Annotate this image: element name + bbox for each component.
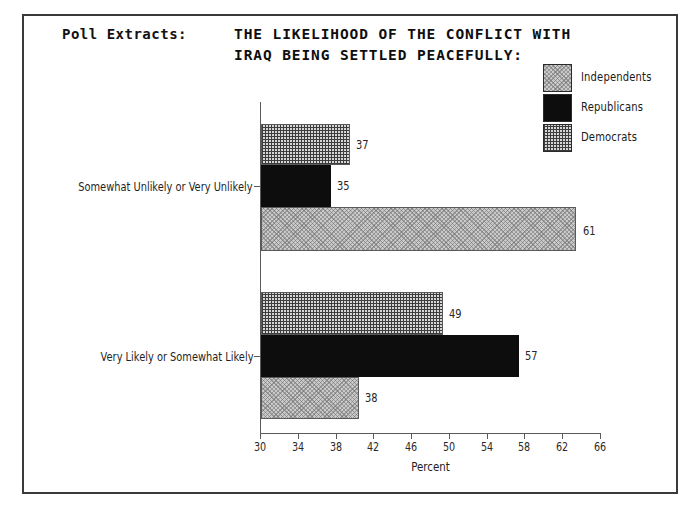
bar-value-republicans-very-likely: 57: [525, 349, 538, 363]
scanned-page: Poll Extracts: THE LIKELIHOOD OF THE CON…: [0, 0, 698, 512]
y-axis-tick-very-likely: [254, 356, 261, 357]
x-tick-label-58: 58: [518, 440, 530, 454]
y-axis-label-very-likely: Very Likely or Somewhat Likely: [100, 350, 253, 364]
x-tick-58: [524, 433, 525, 439]
y-axis-label-somewhat-unlikely: Somewhat Unlikely or Very Unlikely: [79, 180, 253, 194]
x-tick-label-34: 34: [292, 440, 304, 454]
y-axis-tick-somewhat-unlikely: [254, 186, 261, 187]
x-tick-38: [336, 433, 337, 439]
x-axis-title-text: Percent: [411, 459, 450, 474]
chart-frame: Poll Extracts: THE LIKELIHOOD OF THE CON…: [22, 14, 678, 494]
x-tick-label-66: 66: [594, 440, 606, 454]
x-tick-label-46: 46: [405, 440, 417, 454]
bar-republicans-somewhat-unlikely[interactable]: [261, 165, 331, 207]
x-tick-label-42: 42: [367, 440, 379, 454]
bar-democrats-somewhat-unlikely[interactable]: [261, 124, 350, 165]
x-tick-54: [487, 433, 488, 439]
bar-value-independents-somewhat-unlikely: 61: [583, 224, 596, 238]
bar-independents-very-likely[interactable]: [261, 377, 359, 419]
x-tick-label-30: 30: [254, 440, 266, 454]
bar-value-democrats-somewhat-unlikely: 37: [356, 138, 369, 152]
x-tick-50: [449, 433, 450, 439]
plot-area: 37 35 61 Somewhat Unlikely or Very Unlik…: [24, 16, 680, 496]
x-axis-line: [260, 433, 601, 434]
x-tick-34: [298, 433, 299, 439]
bar-value-democrats-very-likely: 49: [449, 307, 462, 321]
bar-republicans-very-likely[interactable]: [261, 335, 519, 377]
x-axis-title: Percent: [260, 459, 601, 474]
x-tick-66: [600, 433, 601, 439]
bar-value-republicans-somewhat-unlikely: 35: [337, 179, 350, 193]
x-tick-42: [373, 433, 374, 439]
x-tick-62: [562, 433, 563, 439]
x-tick-label-62: 62: [556, 440, 568, 454]
x-tick-46: [411, 433, 412, 439]
x-tick-label-54: 54: [481, 440, 493, 454]
bar-value-independents-very-likely: 38: [365, 391, 378, 405]
x-tick-label-50: 50: [443, 440, 455, 454]
bar-democrats-very-likely[interactable]: [261, 292, 443, 335]
bar-independents-somewhat-unlikely[interactable]: [261, 207, 576, 251]
x-tick-30: [260, 433, 261, 439]
x-tick-label-38: 38: [330, 440, 342, 454]
